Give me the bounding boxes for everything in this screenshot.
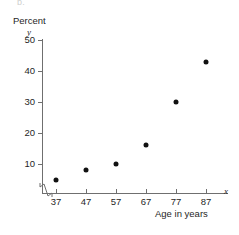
data-point-67-16	[144, 143, 149, 148]
x-tick-label-67: 67	[134, 196, 158, 207]
data-point-87-43	[204, 59, 209, 64]
x-axis-line	[42, 193, 228, 194]
x-tick-67	[146, 189, 147, 194]
data-point-57-10	[114, 162, 119, 167]
data-point-47-8	[84, 168, 89, 173]
x-tick-57	[116, 189, 117, 194]
data-point-37-5	[54, 177, 59, 182]
x-tick-label-77: 77	[164, 196, 188, 207]
data-point-77-30	[174, 100, 179, 105]
y-axis-title: Percent	[13, 15, 46, 26]
y-axis-line	[42, 39, 43, 194]
axis-break-icon	[38, 183, 58, 197]
y-tick-label-20: 20	[13, 127, 35, 138]
y-tick-label-40: 40	[13, 65, 35, 76]
x-axis-variable-label: x	[224, 186, 228, 196]
x-tick-37	[56, 189, 57, 194]
y-tick-40	[38, 71, 43, 72]
x-tick-label-47: 47	[74, 196, 98, 207]
scatter-plot-figure: b. Percent y 1020304050 374757677787 x A…	[0, 0, 239, 235]
x-tick-77	[176, 189, 177, 194]
x-axis-title: Age in years	[155, 208, 208, 219]
x-tick-label-87: 87	[194, 196, 218, 207]
x-tick-47	[86, 189, 87, 194]
y-tick-30	[38, 102, 43, 103]
y-tick-20	[38, 133, 43, 134]
x-tick-87	[206, 189, 207, 194]
y-tick-label-10: 10	[13, 158, 35, 169]
y-tick-50	[38, 40, 43, 41]
y-tick-10	[38, 164, 43, 165]
figure-part-label: b.	[17, 0, 25, 7]
y-tick-label-50: 50	[13, 34, 35, 45]
x-tick-label-37: 37	[44, 196, 68, 207]
x-tick-label-57: 57	[104, 196, 128, 207]
y-tick-label-30: 30	[13, 96, 35, 107]
